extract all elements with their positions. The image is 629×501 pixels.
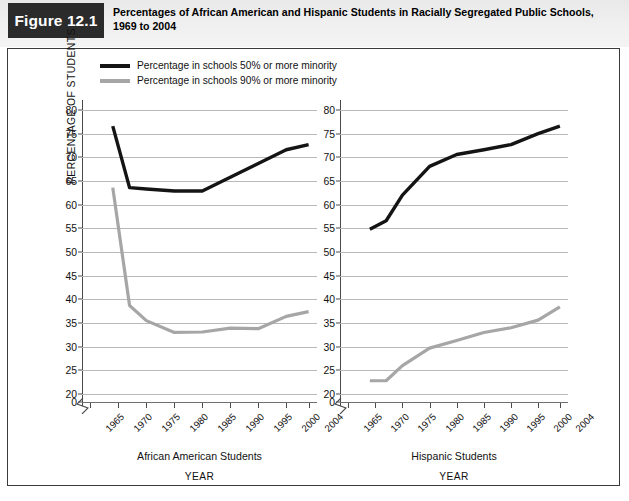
data-series-line [113,188,309,333]
x-axis-title-left: YEAR [82,471,317,482]
y-tick-label: 30 [309,341,340,352]
y-tick-label: 65 [51,176,82,187]
legend-item-50-percent: Percentage in schools 50% or more minori… [100,58,337,73]
y-tick-label: 80 [51,105,82,116]
panel-caption-left: African American Students [82,450,317,462]
series-layer [82,100,317,410]
y-tick-label: 30 [51,341,82,352]
chart-legend: Percentage in schools 50% or more minori… [100,58,337,88]
y-tick-label: 60 [309,199,340,210]
legend-swatch-light-icon [100,79,130,83]
data-series-line [370,126,560,229]
y-tick-label: 45 [309,270,340,281]
y-tick-label: 55 [309,223,340,234]
y-tick-label: 40 [309,294,340,305]
legend-item-90-percent: Percentage in schools 90% or more minori… [100,73,337,88]
y-tick-label: 50 [51,247,82,258]
y-tick-label: 75 [51,128,82,139]
y-tick-label: 35 [51,318,82,329]
chart-panel-hispanic: 0202530354045505560657075801965197019751… [340,100,568,410]
y-tick-label: 75 [309,128,340,139]
y-tick-label: 70 [309,152,340,163]
panel-caption-right: Hispanic Students [340,450,568,462]
legend-swatch-dark-icon [100,64,130,68]
y-tick-label: 80 [309,105,340,116]
chart-panel-african-american: PERCENTAGE OF STUDENTS 02025303540455055… [82,100,317,410]
data-series-line [113,126,309,191]
y-tick-label: 65 [309,176,340,187]
y-tick-label: 35 [309,318,340,329]
series-layer [340,100,568,410]
y-tick-label: 45 [51,270,82,281]
y-tick-label: 60 [51,199,82,210]
figure-title: Percentages of African American and Hisp… [113,5,618,33]
x-axis-title-right: YEAR [340,471,568,482]
y-tick-label: 55 [51,223,82,234]
data-series-line [370,307,560,381]
figure-number-text: Figure 12.1 [15,12,98,30]
legend-label-90-percent: Percentage in schools 90% or more minori… [137,75,337,86]
y-tick-label: 70 [51,152,82,163]
y-tick-label: 25 [51,365,82,376]
figure-header: Figure 12.1 Percentages of African Ameri… [0,0,629,47]
y-tick-label: 50 [309,247,340,258]
figure-number-badge: Figure 12.1 [8,3,104,38]
legend-label-50-percent: Percentage in schools 50% or more minori… [137,60,337,71]
figure-container: Figure 12.1 Percentages of African Ameri… [0,0,629,501]
y-tick-label: 40 [51,294,82,305]
y-tick-label: 25 [309,365,340,376]
plot-area-right: 0202530354045505560657075801965197019751… [340,100,568,410]
plot-area-left: PERCENTAGE OF STUDENTS 02025303540455055… [82,100,317,410]
